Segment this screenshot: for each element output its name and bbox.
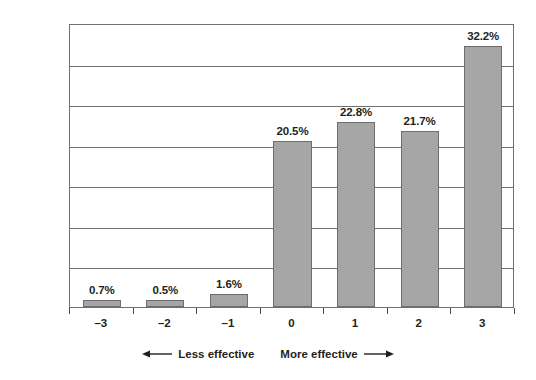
bar-slot: 0.5% [134, 25, 198, 307]
less-effective-label: Less effective [178, 348, 254, 360]
bar-slot: 0.7% [70, 25, 134, 307]
x-axis-tick-label: 2 [415, 317, 421, 329]
bars-layer: 0.7%0.5%1.6%20.5%22.8%21.7%32.2% [70, 25, 513, 307]
more-effective-annotation: More effective [280, 348, 393, 360]
bar-value-label: 21.7% [388, 115, 452, 127]
plot-area: 0.7%0.5%1.6%20.5%22.8%21.7%32.2% [69, 24, 514, 308]
x-axis-tick-label: 1 [352, 317, 358, 329]
x-axis-tick-mark [450, 308, 451, 314]
bar-slot: 20.5% [261, 25, 325, 307]
x-axis-tick-mark [387, 308, 388, 314]
x-axis-tick-label: 3 [479, 317, 485, 329]
x-axis-tick-label: –3 [94, 317, 107, 329]
more-effective-label: More effective [280, 348, 357, 360]
x-axis-tick-label: 0 [288, 317, 294, 329]
bar-slot: 21.7% [388, 25, 452, 307]
bar-slot: 32.2% [451, 25, 515, 307]
x-axis-tick-mark [196, 308, 197, 314]
x-axis-tick-label: –1 [222, 317, 235, 329]
bar-value-label: 20.5% [261, 125, 325, 137]
bar-value-label: 0.7% [70, 284, 134, 296]
bar-chart: 0.7%0.5%1.6%20.5%22.8%21.7%32.2% 0.0%5.0… [0, 0, 536, 380]
arrow-left-icon [142, 349, 172, 359]
x-axis-tick-mark [514, 308, 515, 314]
bar-value-label: 1.6% [197, 278, 261, 290]
bar-value-label: 22.8% [324, 106, 388, 118]
bar[interactable] [83, 300, 121, 307]
x-axis-tick-mark [133, 308, 134, 314]
arrow-right-icon [364, 349, 394, 359]
bar-slot: 22.8% [324, 25, 388, 307]
bar[interactable] [337, 122, 375, 307]
bar[interactable] [210, 294, 248, 307]
bar-value-label: 32.2% [451, 30, 515, 42]
bar[interactable] [146, 300, 184, 307]
bar[interactable] [273, 141, 311, 307]
bar-value-label: 0.5% [134, 284, 198, 296]
x-axis-tick-label: –2 [158, 317, 171, 329]
x-axis-tick-mark [323, 308, 324, 314]
x-axis-tick-mark [260, 308, 261, 314]
bar[interactable] [464, 46, 502, 307]
less-effective-annotation: Less effective [142, 348, 254, 360]
bar[interactable] [401, 131, 439, 307]
effectiveness-direction-note: Less effective More effective [0, 348, 536, 360]
bar-slot: 1.6% [197, 25, 261, 307]
x-axis-tick-mark [69, 308, 70, 314]
